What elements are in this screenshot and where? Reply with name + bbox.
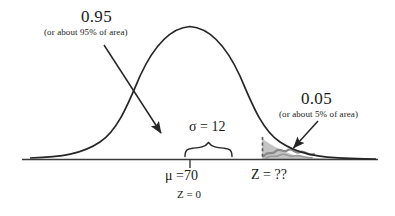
label-area-tail: 0.05: [301, 90, 332, 107]
arrow-to-tail-area: [294, 121, 319, 148]
label-z-center: Z = 0: [177, 189, 201, 200]
label-z-unknown: Z = ??: [251, 168, 287, 182]
arrow-to-main-area: [104, 45, 161, 133]
shaded-tail-region: [262, 139, 340, 159]
label-mean: μ =70: [165, 169, 198, 183]
label-area-tail-sub: (or about 5% of area): [279, 110, 358, 119]
sigma-brace: [185, 143, 232, 157]
label-sigma: σ = 12: [189, 120, 225, 134]
label-area-main: 0.95: [81, 8, 112, 25]
normal-distribution-figure: 0.95 (or about 95% of area) 0.05 (or abo…: [0, 0, 395, 216]
label-area-main-sub: (or about 95% of area): [44, 28, 128, 37]
